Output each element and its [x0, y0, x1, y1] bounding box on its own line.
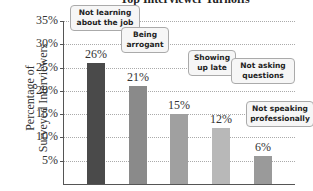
- bar: [87, 63, 105, 184]
- category-callout: Not speakingprofessionally: [246, 101, 313, 127]
- gridline: [63, 44, 295, 45]
- bar: [170, 114, 188, 184]
- y-tick-label: 5%: [24, 153, 58, 168]
- y-tick-label: 35%: [24, 13, 58, 28]
- bar: [212, 128, 230, 184]
- y-tick-label: 15%: [24, 106, 58, 121]
- y-tick-label: 30%: [24, 36, 58, 51]
- category-callout: Not askingquestions: [231, 58, 295, 84]
- y-tick-label: 25%: [24, 60, 58, 75]
- bar: [254, 156, 272, 184]
- tick-mark: [60, 21, 64, 22]
- bar: [129, 86, 147, 184]
- tick-mark: [60, 161, 64, 162]
- value-label: 6%: [243, 140, 283, 155]
- y-tick-label: 20%: [24, 83, 58, 98]
- tick-mark: [60, 91, 64, 92]
- x-axis: [63, 184, 295, 185]
- category-callout: Beingarrogant: [121, 27, 169, 53]
- y-tick-label: 10%: [24, 129, 58, 144]
- y-axis: [63, 21, 64, 184]
- tick-mark: [60, 44, 64, 45]
- value-label: 15%: [159, 98, 199, 113]
- category-callout: Showingup late: [188, 50, 236, 76]
- value-label: 12%: [201, 112, 241, 127]
- tick-mark: [60, 114, 64, 115]
- value-label: 26%: [76, 47, 116, 62]
- value-label: 21%: [118, 70, 158, 85]
- tick-mark: [60, 137, 64, 138]
- tick-mark: [60, 68, 64, 69]
